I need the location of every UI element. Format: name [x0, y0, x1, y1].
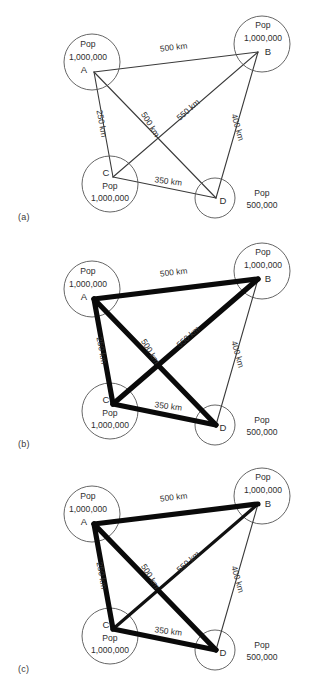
node-A-label: A [81, 64, 88, 75]
node-C-population: 1,000,000 [91, 193, 129, 203]
edge-label-AC: 250 km [95, 336, 110, 365]
node-C-population: 1,000,000 [91, 420, 129, 430]
node-C-label: C [103, 619, 110, 630]
node-B-population: 1,000,000 [244, 33, 282, 43]
edge-label-AC: 250 km [95, 109, 110, 138]
node-A-population: 1,000,000 [69, 52, 107, 62]
node-B-label: B [265, 46, 271, 57]
node-D-pop-word: Pop [254, 415, 270, 425]
edge-label-CB: 550 km [174, 549, 201, 575]
node-A-pop-word: Pop [80, 39, 96, 49]
node-D-label: D [220, 195, 227, 206]
node-B-pop-word: Pop [255, 20, 271, 30]
panel-c-caption: (c) [18, 664, 29, 674]
panel-c: Pop 1,000,000 A Pop 1,000,000 B C Pop 1,… [0, 452, 311, 680]
edge-label-BD: 400 km [229, 565, 246, 594]
node-A-population: 1,000,000 [69, 504, 107, 514]
edge-AB [94, 504, 258, 524]
node-B-population: 1,000,000 [244, 260, 282, 270]
node-D-population: 500,000 [246, 652, 277, 662]
node-C-population: 1,000,000 [91, 645, 129, 655]
edge-label-BD: 400 km [229, 340, 246, 369]
node-B-pop-word: Pop [255, 247, 271, 257]
edge-label-BD: 400 km [229, 113, 246, 142]
node-D-label: D [220, 647, 227, 658]
panel-a-caption: (a) [18, 212, 30, 222]
node-D-pop-word: Pop [254, 188, 270, 198]
node-A-label: A [81, 291, 88, 302]
edge-label-AD: 500 km [139, 110, 162, 139]
node-A-pop-word: Pop [80, 266, 96, 276]
panel-b: Pop 1,000,000 A Pop 1,000,000 B C Pop 1,… [0, 227, 311, 455]
panel-b-graph: Pop 1,000,000 A Pop 1,000,000 B C Pop 1,… [0, 227, 311, 455]
edge-AB [94, 52, 258, 72]
node-A-population: 1,000,000 [69, 279, 107, 289]
node-C-pop-word: Pop [102, 181, 118, 191]
node-B-label: B [265, 273, 271, 284]
node-C-label: C [103, 167, 110, 178]
panel-c-graph: Pop 1,000,000 A Pop 1,000,000 B C Pop 1,… [0, 452, 311, 680]
node-B-pop-word: Pop [255, 472, 271, 482]
edge-label-CB: 550 km [174, 324, 201, 350]
edge-AB [94, 279, 258, 299]
node-C-pop-word: Pop [102, 633, 118, 643]
node-A-pop-word: Pop [80, 491, 96, 501]
node-A-label: A [81, 516, 88, 527]
node-D-population: 500,000 [246, 200, 277, 210]
node-D-population: 500,000 [246, 427, 277, 437]
figure-page: Pop 1,000,000 A Pop 1,000,000 B C Pop 1,… [0, 0, 311, 683]
panel-a-graph: Pop 1,000,000 A Pop 1,000,000 B C Pop 1,… [0, 0, 311, 228]
node-D-label: D [220, 422, 227, 433]
edge-label-AC: 250 km [95, 561, 110, 590]
node-B-population: 1,000,000 [244, 485, 282, 495]
node-C-label: C [103, 394, 110, 405]
panel-a: Pop 1,000,000 A Pop 1,000,000 B C Pop 1,… [0, 0, 311, 228]
node-D-pop-word: Pop [254, 640, 270, 650]
node-C-pop-word: Pop [102, 408, 118, 418]
edge-label-CD: 350 km [154, 174, 183, 187]
edge-label-AB: 500 km [159, 40, 188, 53]
edge-label-AB: 500 km [159, 265, 188, 278]
panel-b-caption: (b) [18, 439, 30, 449]
node-B-label: B [265, 498, 271, 509]
edge-label-CB: 550 km [174, 97, 201, 123]
edge-label-AB: 500 km [159, 490, 188, 503]
